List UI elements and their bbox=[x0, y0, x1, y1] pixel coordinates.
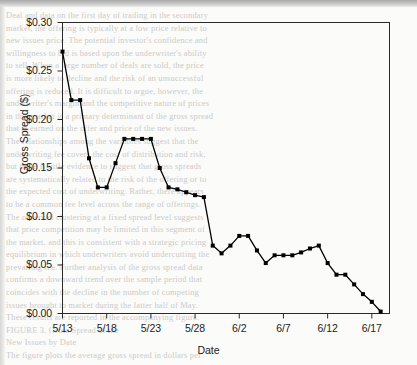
data-point-marker bbox=[255, 248, 259, 252]
data-point-marker bbox=[167, 185, 171, 189]
y-tick-label: $0.05 bbox=[8, 258, 52, 270]
data-point-marker bbox=[114, 161, 118, 165]
data-point-marker bbox=[326, 261, 330, 265]
data-point-marker bbox=[228, 244, 232, 248]
x-tick-label: 5/13 bbox=[43, 322, 83, 334]
gross-spread-line-chart: $0.00$0.05$0.10$0.15$0.20$0.25$0.30 5/13… bbox=[0, 0, 417, 365]
data-point-marker bbox=[220, 251, 224, 255]
data-point-marker bbox=[211, 244, 215, 248]
data-point-marker bbox=[131, 137, 135, 141]
x-tick-label: 6/12 bbox=[308, 322, 348, 334]
x-axis-ticks bbox=[63, 314, 372, 319]
x-tick-label: 6/7 bbox=[263, 322, 303, 334]
data-point-marker bbox=[290, 253, 294, 257]
data-point-marker bbox=[158, 166, 162, 170]
y-axis-title: Gross Spread ($) bbox=[18, 64, 30, 204]
data-point-marker bbox=[237, 234, 241, 238]
data-series-line bbox=[63, 52, 381, 312]
x-tick-label: 5/28 bbox=[175, 322, 215, 334]
data-point-marker bbox=[87, 156, 91, 160]
data-point-marker bbox=[149, 137, 153, 141]
data-point-marker bbox=[122, 137, 126, 141]
data-point-marker bbox=[69, 98, 73, 102]
data-point-marker bbox=[193, 193, 197, 197]
y-tick-label: $0.10 bbox=[8, 210, 52, 222]
series-line-gross-spread bbox=[63, 52, 381, 312]
x-tick-label: 6/17 bbox=[352, 322, 392, 334]
data-point-marker bbox=[370, 300, 374, 304]
data-point-marker bbox=[78, 98, 82, 102]
x-tick-label: 5/23 bbox=[131, 322, 171, 334]
x-tick-label: 5/18 bbox=[87, 322, 127, 334]
data-point-marker bbox=[317, 244, 321, 248]
y-tick-label: $0.20 bbox=[8, 113, 52, 125]
data-point-marker bbox=[96, 185, 100, 189]
data-point-marker bbox=[379, 310, 383, 314]
data-point-marker bbox=[140, 137, 144, 141]
y-axis-ticks bbox=[58, 23, 63, 314]
data-point-marker bbox=[281, 253, 285, 257]
data-point-marker bbox=[61, 50, 65, 54]
x-tick-label: 6/2 bbox=[219, 322, 259, 334]
chart-plot-svg bbox=[0, 0, 417, 365]
y-tick-label: $0.15 bbox=[8, 161, 52, 173]
data-point-marker bbox=[202, 195, 206, 199]
data-point-marker bbox=[308, 247, 312, 251]
data-point-marker bbox=[184, 190, 188, 194]
data-point-marker bbox=[299, 250, 303, 254]
data-point-marker bbox=[343, 273, 347, 277]
y-tick-label: $0.25 bbox=[8, 64, 52, 76]
data-point-marker bbox=[352, 282, 356, 286]
x-axis-title: Date bbox=[0, 344, 417, 356]
plot-frame bbox=[63, 23, 390, 314]
data-point-marker bbox=[334, 273, 338, 277]
data-point-marker bbox=[361, 292, 365, 296]
data-point-marker bbox=[273, 253, 277, 257]
data-point-marker bbox=[246, 234, 250, 238]
y-tick-label: $0.00 bbox=[8, 307, 52, 319]
data-point-marker bbox=[264, 261, 268, 265]
y-tick-label: $0.30 bbox=[8, 16, 52, 28]
data-point-marker bbox=[105, 185, 109, 189]
data-point-marker bbox=[175, 187, 179, 191]
